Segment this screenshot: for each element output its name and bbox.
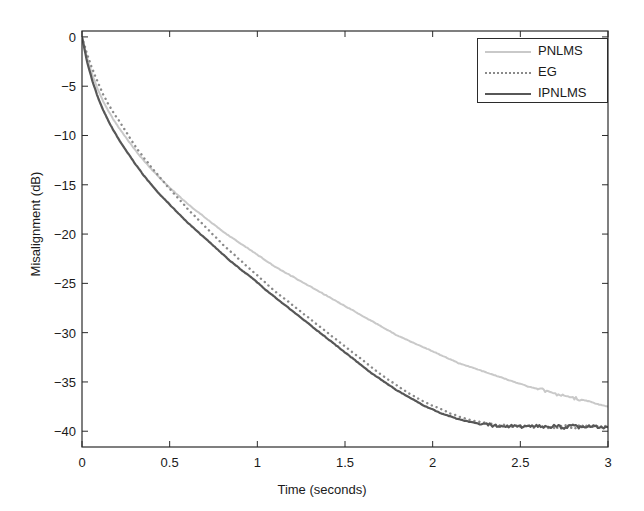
x-tick-label-0: 0 [78, 455, 85, 470]
legend-label-ipnlms: IPNLMS [538, 85, 586, 100]
legend-entry-pnlms[interactable]: PNLMS [478, 40, 609, 61]
y-axis-title: Misalignment (dB) [28, 172, 43, 277]
legend-entry-ipnlms[interactable]: IPNLMS [478, 82, 609, 103]
legend-swatch-pnlms [485, 45, 531, 57]
legend-label-eg: EG [538, 64, 557, 79]
legend-entry-eg[interactable]: EG [478, 61, 609, 82]
x-axis-title: Time (seconds) [0, 482, 644, 497]
legend-swatch-eg [485, 66, 531, 78]
figure-canvas: 0−5−10−15−20−25−30−35−40 00.511.522.53 T… [0, 0, 644, 511]
x-tick-label-6: 3 [604, 455, 611, 470]
legend-label-pnlms: PNLMS [538, 43, 583, 58]
y-tick-label-1: −5 [28, 79, 76, 94]
x-tick-label-3: 1.5 [336, 455, 354, 470]
y-tick-label-8: −40 [28, 424, 76, 439]
legend-swatch-ipnlms [485, 87, 531, 99]
y-tick-label-7: −35 [28, 374, 76, 389]
chart-legend[interactable]: PNLMS EG IPNLMS [477, 38, 608, 103]
y-tick-label-0: 0 [28, 29, 76, 44]
x-tick-label-5: 2.5 [511, 455, 529, 470]
x-tick-label-4: 2 [429, 455, 436, 470]
x-tick-label-1: 0.5 [161, 455, 179, 470]
y-axis-title-wrapper: Misalignment (dB) [26, 94, 44, 354]
x-tick-label-2: 1 [254, 455, 261, 470]
